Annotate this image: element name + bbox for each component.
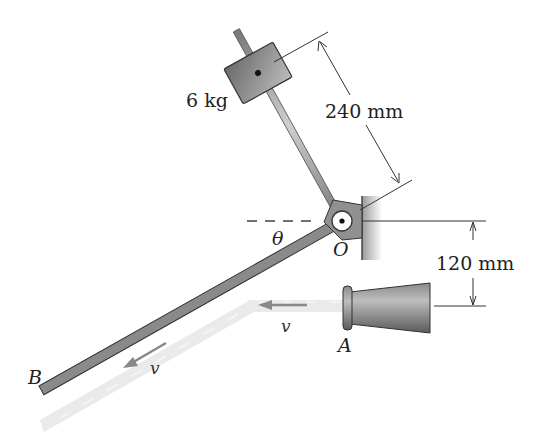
mass-block: [224, 42, 292, 104]
angle-label: θ: [272, 227, 284, 249]
pivot-label: O: [333, 238, 349, 260]
rod-length-label: 240 mm: [325, 100, 403, 122]
velocity-plate-label: v: [150, 358, 160, 378]
nozzle: [343, 283, 430, 333]
offset-label: 120 mm: [436, 252, 514, 274]
mass-label: 6 kg: [186, 89, 228, 111]
wall-support: [362, 196, 382, 260]
jet-deflector-diagram: 6 kg 240 mm 120 mm θ O A B v v: [0, 0, 536, 439]
nozzle-label: A: [336, 334, 352, 356]
plate-end-label: B: [27, 366, 42, 388]
velocity-jet-label: v: [281, 316, 291, 336]
